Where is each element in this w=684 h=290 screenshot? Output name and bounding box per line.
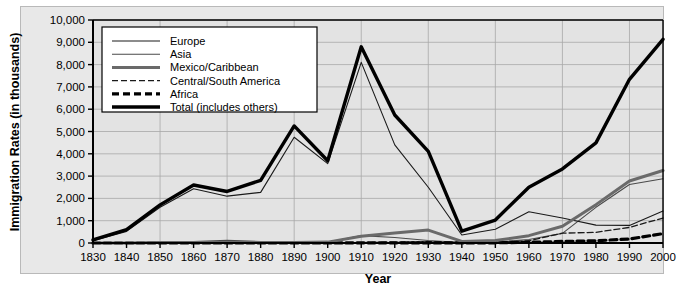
y-tick-label: 7,000	[56, 81, 85, 93]
x-tick-label: 1840	[114, 251, 140, 263]
legend-label-1: Europe	[170, 35, 205, 47]
x-tick-label: 2000	[650, 251, 676, 263]
chart-canvas: 01,0002,0003,0004,0005,0006,0007,0008,00…	[0, 0, 684, 290]
legend-label-3: Mexico/Caribbean	[170, 61, 259, 73]
legend-label-4: Central/South America	[170, 75, 281, 87]
x-tick-label: 1830	[80, 251, 106, 263]
x-tick-label: 1870	[214, 251, 240, 263]
chart-legend: EuropeAsiaMexico/CaribbeanCentral/South …	[102, 27, 317, 113]
x-tick-label: 1930	[415, 251, 441, 263]
x-tick-label: 1920	[382, 251, 408, 263]
y-tick-label: 4,000	[56, 148, 85, 160]
y-tick-label: 3,000	[56, 170, 85, 182]
legend-label-6: Total (includes others)	[170, 101, 278, 113]
legend-label-2: Asia	[170, 48, 192, 60]
immigration-rates-chart-figure: 01,0002,0003,0004,0005,0006,0007,0008,00…	[0, 0, 684, 290]
x-tick-label: 1960	[516, 251, 542, 263]
x-tick-label: 1950	[483, 251, 509, 263]
x-tick-label: 1990	[617, 251, 643, 263]
y-tick-label: 6,000	[56, 103, 85, 115]
y-tick-label: 1,000	[56, 215, 85, 227]
x-axis-ticks: 1830184018501860187018801890190019101920…	[80, 243, 676, 263]
x-tick-label: 1900	[315, 251, 341, 263]
legend-label-5: Africa	[170, 88, 199, 100]
y-tick-label: 10,000	[50, 14, 85, 26]
y-tick-label: 0	[79, 237, 85, 249]
y-axis-ticks: 01,0002,0003,0004,0005,0006,0007,0008,00…	[50, 14, 93, 249]
x-tick-label: 1980	[583, 251, 609, 263]
y-tick-label: 8,000	[56, 59, 85, 71]
y-tick-label: 2,000	[56, 192, 85, 204]
x-tick-label: 1940	[449, 251, 475, 263]
x-tick-label: 1850	[147, 251, 173, 263]
x-tick-label: 1880	[248, 251, 274, 263]
y-tick-label: 5,000	[56, 126, 85, 138]
x-tick-label: 1890	[281, 251, 307, 263]
x-tick-label: 1970	[550, 251, 576, 263]
x-axis-title: Year	[365, 272, 392, 286]
x-tick-label: 1860	[181, 251, 207, 263]
y-tick-label: 9,000	[56, 36, 85, 48]
y-axis-title: Immigration Rates (in thousands)	[8, 33, 22, 232]
x-tick-label: 1910	[348, 251, 374, 263]
